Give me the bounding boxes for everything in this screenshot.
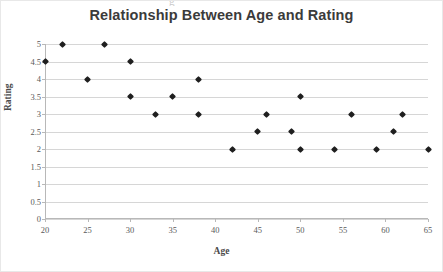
y-tick-label: 0	[37, 214, 41, 224]
data-point	[424, 145, 431, 152]
y-axis-label: Rating	[3, 84, 13, 111]
data-point	[84, 75, 91, 82]
gridline	[45, 184, 428, 185]
y-tick-label: 4	[37, 74, 41, 84]
y-tick-label: 0.5	[30, 197, 41, 207]
data-point	[288, 128, 295, 135]
gridline	[45, 219, 428, 220]
x-tick-mark	[173, 219, 174, 222]
y-tick-mark	[42, 132, 45, 133]
data-point	[169, 93, 176, 100]
y-tick-label: 1.5	[30, 162, 41, 172]
x-tick-label: 60	[381, 225, 390, 235]
x-tick-label: 65	[424, 225, 433, 235]
y-tick-mark	[42, 202, 45, 203]
x-tick-label: 45	[254, 225, 263, 235]
x-tick-mark	[385, 219, 386, 222]
x-tick-label: 20	[41, 225, 50, 235]
data-point	[127, 93, 134, 100]
y-axis-line	[45, 44, 46, 219]
y-tick-mark	[42, 79, 45, 80]
data-point	[331, 145, 338, 152]
x-tick-label: 25	[83, 225, 92, 235]
x-tick-label: 40	[211, 225, 220, 235]
data-point	[101, 40, 108, 47]
y-tick-mark	[42, 184, 45, 185]
y-tick-label: 3.5	[30, 92, 41, 102]
gridline	[45, 79, 428, 80]
y-tick-label: 2.5	[30, 127, 41, 137]
plot-area: 00.511.522.533.544.55 202530354045505560…	[45, 44, 428, 219]
y-tick-mark	[42, 97, 45, 98]
gridline	[45, 62, 428, 63]
data-point	[390, 128, 397, 135]
gridline	[45, 202, 428, 203]
data-point	[348, 110, 355, 117]
y-tick-label: 1	[37, 179, 41, 189]
y-tick-mark	[42, 149, 45, 150]
data-point	[254, 128, 261, 135]
data-point	[58, 40, 65, 47]
y-tick-label: 3	[37, 109, 41, 119]
x-tick-label: 30	[126, 225, 135, 235]
data-point	[229, 145, 236, 152]
data-point	[373, 145, 380, 152]
gridline	[45, 97, 428, 98]
y-tick-mark	[42, 114, 45, 115]
x-tick-mark	[258, 219, 259, 222]
data-point	[195, 75, 202, 82]
x-tick-label: 50	[296, 225, 305, 235]
gridline	[45, 149, 428, 150]
data-point	[127, 58, 134, 65]
x-tick-label: 35	[168, 225, 177, 235]
gridline	[45, 132, 428, 133]
data-point	[263, 110, 270, 117]
y-tick-label: 2	[37, 144, 41, 154]
x-axis-label: Age	[1, 246, 442, 256]
x-tick-mark	[343, 219, 344, 222]
y-tick-mark	[42, 44, 45, 45]
data-point	[297, 93, 304, 100]
x-tick-mark	[215, 219, 216, 222]
data-point	[399, 110, 406, 117]
gridline	[45, 114, 428, 115]
y-tick-label: 4.5	[30, 57, 41, 67]
data-point	[297, 145, 304, 152]
x-axis-line	[45, 218, 428, 219]
x-tick-mark	[45, 219, 46, 222]
y-tick-label: 5	[37, 39, 41, 49]
data-point	[152, 110, 159, 117]
data-point	[41, 58, 48, 65]
chart-title: Relationship Between Age and Rating	[1, 7, 442, 23]
x-tick-label: 55	[339, 225, 348, 235]
gridline	[45, 167, 428, 168]
x-tick-mark	[88, 219, 89, 222]
x-tick-mark	[130, 219, 131, 222]
chart-container: g Relationship Between Age and Rating 00…	[0, 0, 443, 272]
x-tick-mark	[300, 219, 301, 222]
data-point	[195, 110, 202, 117]
x-tick-mark	[428, 219, 429, 222]
y-tick-mark	[42, 167, 45, 168]
top-edge-artifact: g	[169, 0, 183, 6]
